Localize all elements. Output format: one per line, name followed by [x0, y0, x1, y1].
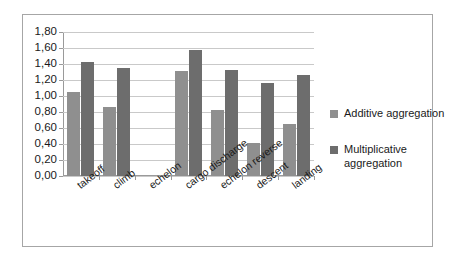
legend-swatch-icon [330, 110, 338, 118]
y-axis-tick-label: 1,20 [35, 74, 57, 86]
y-axis-tick-label: 0,40 [35, 138, 57, 150]
legend-label: Multiplicative aggregation [344, 143, 448, 171]
y-axis-tick-label: 1,60 [35, 42, 57, 54]
bar [81, 62, 94, 176]
legend-item-additive: Additive aggregation [330, 107, 448, 121]
bar [67, 92, 80, 176]
y-axis-tick-label: 1,40 [35, 58, 57, 70]
bar [189, 50, 202, 176]
bar [297, 75, 310, 176]
bar-group [278, 32, 314, 176]
bar-group [63, 32, 99, 176]
y-axis-tick-label: 0,20 [35, 154, 57, 166]
y-axis-tick-label: 1,80 [35, 26, 57, 38]
legend-swatch-icon [330, 146, 338, 154]
chart-frame: 1,801,601,401,201,000,800,600,400,200,00… [22, 14, 433, 247]
plot-area: 1,801,601,401,201,000,800,600,400,200,00 [63, 32, 314, 176]
bar-group [99, 32, 135, 176]
legend-item-multiplicative: Multiplicative aggregation [330, 143, 448, 171]
bar-group [171, 32, 207, 176]
bar [103, 107, 116, 176]
bar [117, 68, 130, 176]
chart-screenshot: 1,801,601,401,201,000,800,600,400,200,00… [0, 0, 452, 262]
y-axis-tick [59, 176, 63, 177]
bar-group [135, 32, 171, 176]
y-axis-tick-label: 0,60 [35, 122, 57, 134]
y-axis-tick-label: 0,00 [35, 170, 57, 182]
chart-legend: Additive aggregation Multiplicative aggr… [330, 107, 448, 192]
legend-label: Additive aggregation [344, 107, 444, 121]
y-axis-tick-label: 1,00 [35, 90, 57, 102]
y-axis-tick-label: 0,80 [35, 106, 57, 118]
